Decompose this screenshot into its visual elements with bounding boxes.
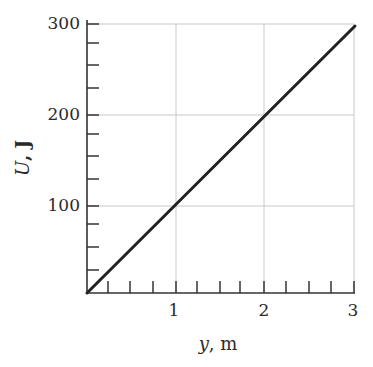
y-ticks bbox=[87, 24, 99, 270]
x-tick-label-3: 3 bbox=[348, 300, 359, 320]
series-line-u-vs-y bbox=[87, 26, 355, 293]
y-axis-label: U, J bbox=[12, 140, 33, 176]
x-tick-label-1: 1 bbox=[169, 300, 180, 320]
y-tick-label-200: 200 bbox=[48, 104, 80, 124]
y-axis-label-var: U bbox=[12, 160, 33, 176]
x-axis-label-unit: , m bbox=[209, 333, 238, 354]
x-ticks bbox=[108, 281, 354, 293]
y-tick-label-300: 300 bbox=[48, 13, 80, 33]
x-tick-label-2: 2 bbox=[259, 300, 270, 320]
chart-canvas: 300 200 100 1 2 3 y, m U, J bbox=[0, 0, 373, 367]
x-axis-label: y, m bbox=[198, 333, 238, 354]
y-axis-label-unit: , J bbox=[12, 140, 33, 161]
y-tick-label-100: 100 bbox=[48, 195, 80, 215]
